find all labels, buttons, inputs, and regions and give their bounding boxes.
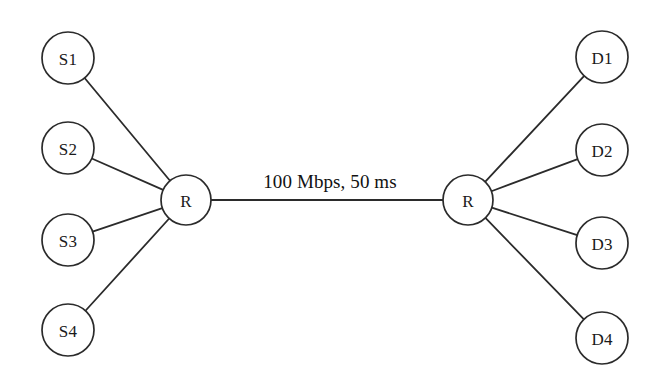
edges-group — [85, 76, 585, 319]
node-label-d1: D1 — [591, 49, 612, 68]
node-s2[interactable]: S2 — [42, 122, 94, 174]
edge-rr-d3 — [492, 208, 577, 235]
node-label-rr: R — [462, 192, 474, 211]
node-rr[interactable]: R — [443, 175, 493, 225]
edge-s1-rl — [85, 78, 170, 181]
node-d3[interactable]: D3 — [576, 217, 628, 269]
node-label-d4: D4 — [591, 330, 612, 349]
node-label-d3: D3 — [591, 235, 612, 254]
edge-rr-d1 — [485, 76, 584, 182]
network-topology-diagram: S1S2S3S4RRD1D2D3D4 100 Mbps, 50 ms — [0, 0, 665, 385]
edge-s3-rl — [93, 208, 163, 232]
node-d4[interactable]: D4 — [576, 312, 628, 364]
node-label-s1: S1 — [59, 50, 77, 69]
edge-s2-rl — [92, 158, 163, 189]
node-label-d2: D2 — [591, 142, 612, 161]
bottleneck-link-label: 100 Mbps, 50 ms — [263, 171, 396, 192]
nodes-group: S1S2S3S4RRD1D2D3D4 — [42, 31, 628, 364]
node-d1[interactable]: D1 — [576, 31, 628, 83]
node-rl[interactable]: R — [161, 175, 211, 225]
node-d2[interactable]: D2 — [576, 124, 628, 176]
node-label-s3: S3 — [59, 232, 77, 251]
node-s3[interactable]: S3 — [42, 214, 94, 266]
topology-canvas: S1S2S3S4RRD1D2D3D4 100 Mbps, 50 ms — [0, 0, 665, 385]
node-label-s2: S2 — [59, 140, 77, 159]
node-s1[interactable]: S1 — [42, 32, 94, 84]
edge-s4-rl — [85, 219, 169, 311]
node-label-rl: R — [180, 192, 192, 211]
node-label-s4: S4 — [59, 322, 78, 341]
edge-rr-d2 — [491, 159, 577, 191]
node-s4[interactable]: S4 — [42, 304, 94, 356]
